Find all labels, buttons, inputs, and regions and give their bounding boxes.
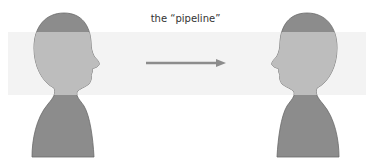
left-head-figure [32,13,99,157]
arrow-right-icon [146,59,226,67]
right-head-figure [272,13,339,157]
diagram-canvas [0,0,371,164]
